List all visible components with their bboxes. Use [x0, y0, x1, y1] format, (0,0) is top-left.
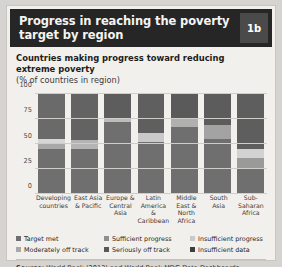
bar-segment [71, 94, 98, 140]
x-axis-tick-label: Latin America & Caribbean [138, 194, 170, 224]
figure-number-badge: 1b [240, 13, 268, 43]
bar-segment [171, 127, 198, 194]
divider [16, 259, 266, 260]
legend-item: Seriously off track [104, 246, 190, 254]
bar-segment [171, 119, 198, 127]
x-axis-tick-label: East Asia & Pacific [73, 194, 103, 224]
y-axis-tick-label: 25 [24, 157, 32, 165]
bar-column [171, 94, 198, 194]
bar-segment [138, 133, 165, 142]
bar-column [204, 94, 231, 194]
figure-title: Progress in reaching the poverty target … [10, 14, 272, 42]
gridline: 50 [35, 143, 267, 144]
legend-label: Seriously off track [112, 246, 170, 254]
legend-swatch-icon [190, 236, 195, 241]
bar-segment [104, 122, 131, 194]
x-axis-tick-label: Middle East & North Africa [171, 194, 201, 224]
legend-swatch-icon [104, 236, 109, 241]
bar-segment [171, 94, 198, 119]
stacked-bar-chart: 0255075100 Developing countriesEast Asia… [13, 90, 269, 208]
bar-segment [237, 94, 264, 149]
legend-item: Insufficient data [190, 246, 266, 254]
bar-segment [204, 125, 231, 139]
y-axis-tick-label: 100 [19, 81, 32, 89]
bar-segment [138, 94, 165, 133]
figure-title-bar: Progress in reaching the poverty target … [10, 9, 272, 47]
x-axis-labels: Developing countriesEast Asia & PacificE… [35, 194, 267, 224]
x-axis-tick-label: Sub-Saharan Africa [236, 194, 266, 224]
bar-segment [38, 94, 65, 139]
bar-segment [38, 149, 65, 194]
bar-segment [104, 94, 131, 118]
legend-item: Target met [16, 235, 104, 243]
chart-legend: Target metSufficient progressInsufficien… [16, 234, 266, 254]
legend-swatch-icon [190, 247, 195, 252]
gridline: 25 [35, 168, 267, 169]
gridline: 75 [35, 118, 267, 119]
legend-label: Target met [24, 235, 58, 243]
legend-swatch-icon [104, 247, 109, 252]
legend-item: Sufficient progress [104, 235, 190, 243]
bar-segment [204, 94, 231, 125]
y-axis-tick-label: 75 [24, 106, 32, 114]
legend-label: Insufficient progress [198, 235, 263, 243]
chart-subtitle: Countries making progress toward reducin… [16, 53, 266, 75]
legend-label: Sufficient progress [112, 235, 172, 243]
legend-item: Insufficient progress [190, 235, 266, 243]
bar-column [138, 94, 165, 194]
chart-subtitle-unit: (% of countries in region) [16, 75, 266, 86]
bar-column [71, 94, 98, 194]
bar-segment [237, 149, 264, 158]
figure-page: Progress in reaching the poverty target … [0, 0, 282, 267]
plot-area: 0255075100 [35, 94, 267, 194]
gridline: 100 [35, 93, 267, 94]
bar-segment [237, 169, 264, 194]
legend-swatch-icon [16, 247, 21, 252]
legend-label: Moderately off track [24, 246, 89, 254]
bar-segment [71, 149, 98, 194]
legend-item: Moderately off track [16, 246, 104, 254]
y-axis-tick-label: 50 [24, 132, 32, 140]
bar-group [35, 94, 267, 194]
subtitle-block: Countries making progress toward reducin… [7, 47, 275, 88]
legend-swatch-icon [16, 236, 21, 241]
bar-column [38, 94, 65, 194]
figure-card: Progress in reaching the poverty target … [6, 5, 276, 261]
x-axis-tick-label: Developing countries [36, 194, 71, 224]
x-axis-tick-label: South Asia [204, 194, 234, 224]
bar-column [104, 94, 131, 194]
bar-column [237, 94, 264, 194]
x-axis-tick-label: Europe & Central Asia [105, 194, 135, 224]
bar-segment [204, 139, 231, 194]
y-axis-tick-label: 0 [28, 182, 32, 190]
legend-label: Insufficient data [198, 246, 250, 254]
bar-segment [71, 140, 98, 149]
